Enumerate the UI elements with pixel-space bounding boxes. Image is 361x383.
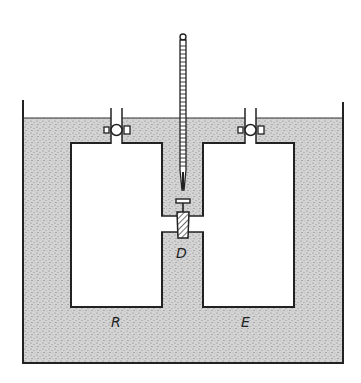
thermometer [180,34,186,190]
label-d: D [176,245,187,261]
label-e: E [241,314,250,330]
vessel-e [203,143,294,307]
label-r: R [111,314,121,330]
vessel-r [71,143,162,307]
diagram-canvas: D R E [0,0,361,383]
